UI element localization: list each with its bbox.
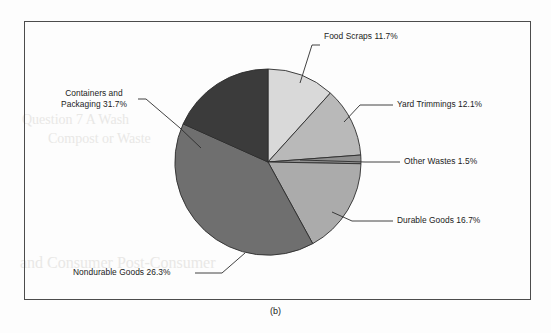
slice-label-other-wastes: Other Wastes 1.5% xyxy=(404,156,477,167)
leader-line-yard-trimmings xyxy=(344,105,393,122)
slice-label-nondurable-goods: Nondurable Goods 26.3% xyxy=(73,267,170,278)
slice-label-containers-line-1: Containers and xyxy=(48,88,140,99)
figure-caption: (b) xyxy=(0,306,551,316)
slice-label-containers-and-packaging: Containers and Packaging 31.7% xyxy=(48,88,140,109)
slice-label-containers-line-2: Packaging 31.7% xyxy=(48,99,140,110)
slice-label-yard-trimmings: Yard Trimmings 12.1% xyxy=(397,99,482,110)
slice-label-durable-goods: Durable Goods 16.7% xyxy=(397,215,480,226)
slice-label-food-scraps: Food Scraps 11.7% xyxy=(324,31,398,42)
pie-chart: Food Scraps 11.7% Yard Trimmings 12.1% O… xyxy=(0,0,551,333)
leader-line-nondurable-goods xyxy=(195,253,245,273)
